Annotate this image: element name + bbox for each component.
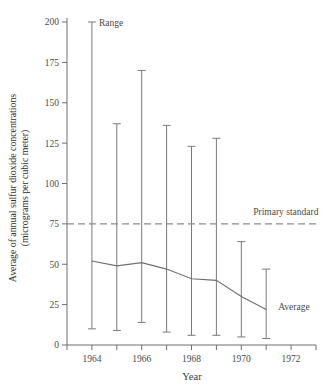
y-tick-label-125: 125: [45, 139, 60, 149]
annotation-range: Range: [99, 18, 123, 28]
y-tick-label-75: 75: [50, 219, 60, 229]
y-tick-label-25: 25: [50, 300, 60, 310]
sulfur-dioxide-chart: Average of annual sulfur dioxide concent…: [0, 0, 324, 388]
y-axis-title-line2: (micrograms per cubic meter): [19, 130, 31, 247]
x-tick-label-1966: 1966: [132, 354, 151, 364]
y-tick-label-150: 150: [45, 98, 60, 108]
y-axis-title-line1: Average of annual sulfur dioxide concent…: [7, 94, 18, 283]
y-tick-label-200: 200: [45, 17, 60, 27]
x-tick-label-1970: 1970: [232, 354, 251, 364]
x-tick-label-1972: 1972: [282, 354, 301, 364]
y-tick-label-175: 175: [45, 58, 60, 68]
x-tick-label-1964: 1964: [82, 354, 101, 364]
y-tick-label-50: 50: [50, 260, 60, 270]
x-axis-title: Year: [182, 371, 202, 382]
x-tick-label-1968: 1968: [182, 354, 201, 364]
chart-canvas: Average of annual sulfur dioxide concent…: [0, 0, 324, 388]
y-tick-label-0: 0: [54, 340, 59, 350]
annotation-primary-standard: Primary standard: [253, 207, 318, 217]
annotation-average: Average: [278, 302, 309, 312]
y-tick-label-100: 100: [45, 179, 60, 189]
